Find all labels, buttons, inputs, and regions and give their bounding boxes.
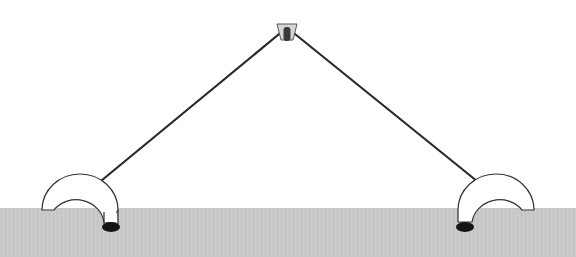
left-hole-icon xyxy=(102,222,120,232)
diagram-canvas xyxy=(0,0,576,257)
right-hole-icon xyxy=(456,222,474,232)
ground xyxy=(0,208,576,257)
peg-icon xyxy=(277,24,297,41)
right-cord xyxy=(290,30,488,190)
left-cord xyxy=(90,30,284,190)
diagram-scene xyxy=(0,0,576,257)
